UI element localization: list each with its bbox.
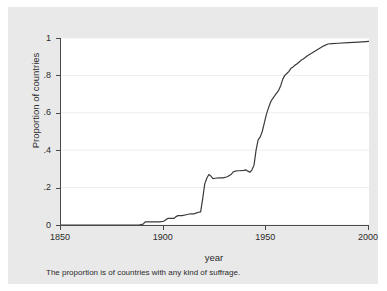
y-tick-mark bbox=[56, 113, 60, 114]
y-tick-label: 0 bbox=[46, 221, 51, 230]
x-tick-mark bbox=[163, 226, 164, 230]
data-line-suffrage bbox=[61, 38, 369, 225]
y-tick-mark bbox=[56, 188, 60, 189]
x-axis-title: year bbox=[60, 252, 368, 263]
plot-area bbox=[60, 38, 369, 226]
chart-note: The proportion is of countries with any … bbox=[46, 268, 240, 277]
y-tick-label: .4 bbox=[43, 146, 51, 155]
y-tick-label: .6 bbox=[43, 108, 51, 117]
y-tick-label: 1 bbox=[46, 34, 51, 43]
x-tick-label: 1950 bbox=[245, 233, 285, 242]
y-tick-mark bbox=[56, 75, 60, 76]
y-tick-label: .2 bbox=[43, 183, 51, 192]
x-tick-label: 1850 bbox=[40, 233, 80, 242]
y-axis-title: Proportion of countries bbox=[30, 26, 41, 176]
y-tick-mark bbox=[56, 38, 60, 39]
chart-figure: Proportion of countries 0.2.4.6.81 18501… bbox=[8, 7, 378, 284]
x-tick-mark bbox=[368, 226, 369, 230]
x-tick-mark bbox=[60, 226, 61, 230]
x-tick-label: 1900 bbox=[143, 233, 183, 242]
x-tick-label: 2000 bbox=[348, 233, 387, 242]
y-tick-mark bbox=[56, 150, 60, 151]
y-tick-label: .8 bbox=[43, 71, 51, 80]
x-tick-mark bbox=[265, 226, 266, 230]
